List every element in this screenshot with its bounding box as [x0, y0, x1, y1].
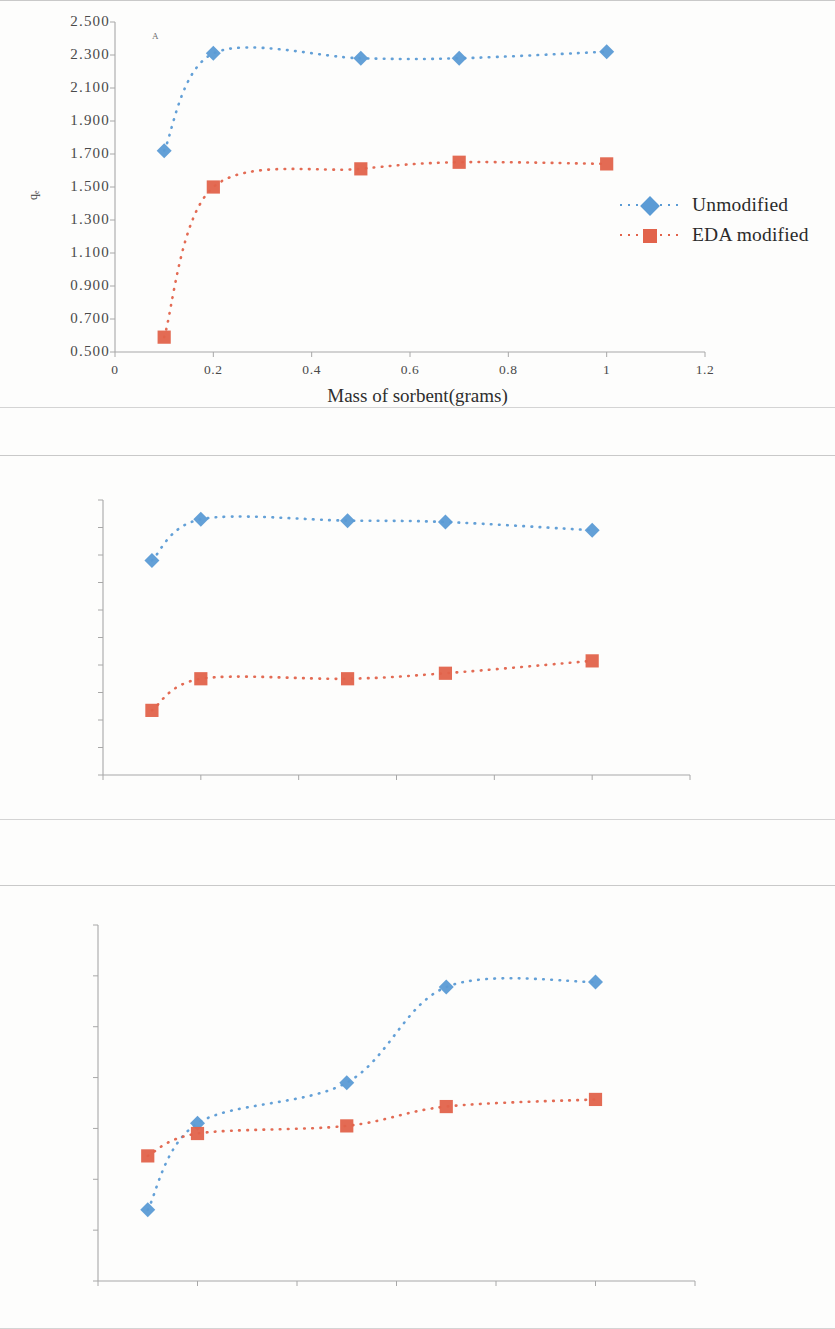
y-tick-label: 1.500	[38, 178, 110, 195]
x-tick-label: 0.2	[183, 362, 243, 378]
plot-area-c	[0, 885, 835, 1329]
y-tick-label: 0.700	[38, 310, 110, 327]
legend-diamond-marker-icon	[620, 197, 682, 213]
chart-panel-b: B qe Mass of sorbent (grams) UnmodifiedE…	[0, 455, 835, 820]
y-tick-label: 1.700	[38, 145, 110, 162]
x-tick-label: 1	[577, 362, 637, 378]
y-tick-label: 1.100	[38, 244, 110, 261]
y-tick-label: 2.300	[38, 46, 110, 63]
y-tick-label: 1.900	[38, 112, 110, 129]
x-tick-label: 1.2	[675, 362, 735, 378]
legend-label: Unmodified	[692, 194, 788, 216]
legend-square-marker-icon	[620, 227, 682, 243]
x-tick-label: 0.4	[282, 362, 342, 378]
figure-page: A qe Mass of sorbent(grams) UnmodifiedED…	[0, 0, 835, 1329]
chart-panel-a: A qe Mass of sorbent(grams) UnmodifiedED…	[0, 0, 835, 408]
x-tick-label: 0.6	[380, 362, 440, 378]
chart-panel-c: C qe Sorbent dose (grams) UnmodifiedModi…	[0, 885, 835, 1329]
x-tick-label: 0.8	[478, 362, 538, 378]
y-tick-label: 2.500	[38, 13, 110, 30]
y-tick-label: 0.900	[38, 277, 110, 294]
plot-area-b	[0, 455, 835, 820]
legend-item[interactable]: EDA modified	[620, 220, 809, 250]
x-tick-label: 0	[85, 362, 145, 378]
legend-a: UnmodifiedEDA modified	[620, 190, 809, 250]
legend-label: EDA modified	[692, 224, 809, 246]
y-tick-label: 0.500	[38, 343, 110, 360]
y-tick-label: 1.300	[38, 211, 110, 228]
y-tick-label: 2.100	[38, 79, 110, 96]
legend-item[interactable]: Unmodified	[620, 190, 809, 220]
